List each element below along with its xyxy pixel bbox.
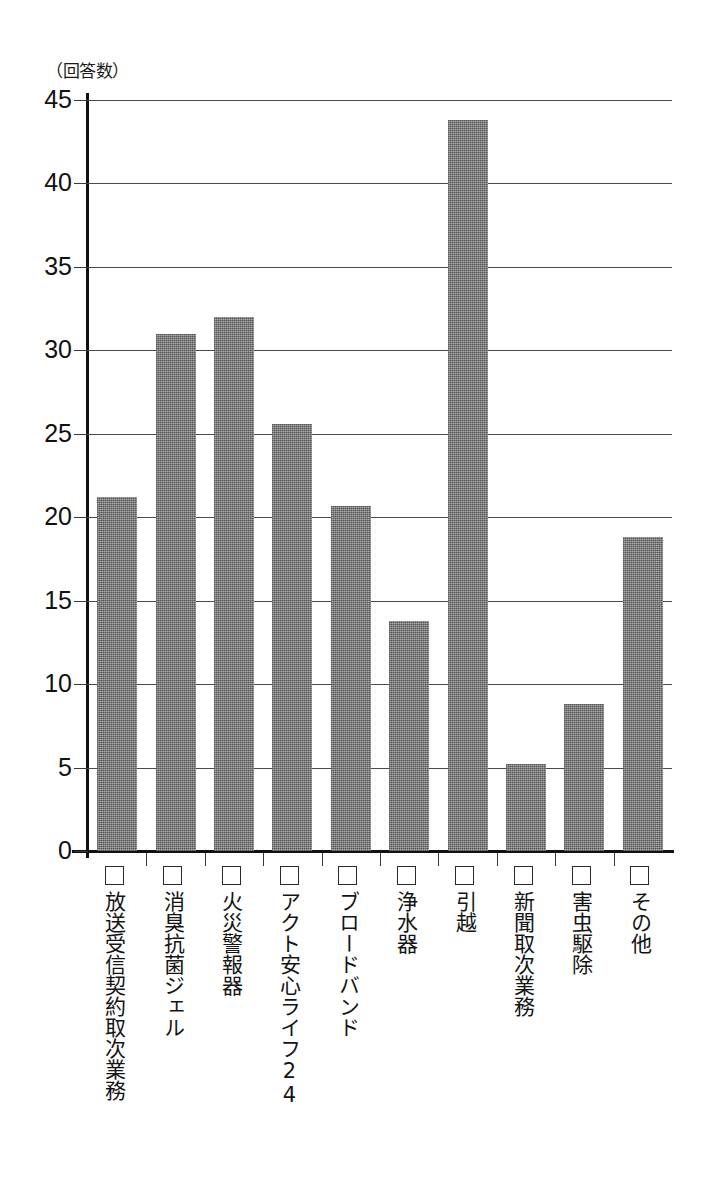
y-axis-tick-label: 0: [28, 838, 72, 863]
category-label-text: 浄水器: [395, 891, 417, 954]
y-axis-tick-mark: [74, 350, 88, 351]
y-axis-tick-label: 20: [28, 504, 72, 529]
checkbox-icon[interactable]: [105, 866, 124, 885]
y-axis-tick-mark: [74, 684, 88, 685]
gridline: [88, 183, 672, 184]
y-axis-tick-label: 15: [28, 588, 72, 613]
y-axis-tick-mark: [74, 100, 88, 101]
category-label[interactable]: 火災警報器: [220, 866, 242, 996]
x-axis-tick-mark: [438, 853, 439, 866]
y-axis-tick-label: 40: [28, 170, 72, 195]
x-axis-tick-mark: [555, 853, 556, 866]
category-label-text: アクト安心ライフ24: [278, 891, 300, 1107]
bar: [156, 334, 196, 851]
y-axis-tick-mark: [74, 768, 88, 769]
x-axis-tick-mark: [497, 853, 498, 866]
category-label[interactable]: 引越: [454, 866, 476, 933]
y-axis-tick-mark: [74, 601, 88, 602]
gridline: [88, 100, 672, 101]
checkbox-icon[interactable]: [397, 866, 416, 885]
y-axis-unit-caption: （回答数）: [46, 57, 129, 82]
y-axis-tick-label: 30: [28, 337, 72, 362]
plot-area: [88, 100, 672, 851]
y-axis-tick-mark: [74, 851, 88, 852]
category-label[interactable]: 新聞取次業務: [512, 866, 534, 1017]
bar: [214, 317, 254, 851]
category-label[interactable]: 害虫駆除: [570, 866, 592, 975]
category-label-text: 放送受信契約取次業務: [103, 891, 125, 1101]
bar: [389, 621, 429, 851]
checkbox-icon[interactable]: [630, 866, 649, 885]
x-axis-tick-mark: [205, 853, 206, 866]
bar: [448, 120, 488, 851]
bar: [506, 764, 546, 851]
checkbox-icon[interactable]: [514, 866, 533, 885]
y-axis-tick-label: 45: [28, 87, 72, 112]
checkbox-icon[interactable]: [338, 866, 357, 885]
category-label-text: 火災警報器: [220, 891, 242, 996]
x-axis-tick-mark: [322, 853, 323, 866]
checkbox-icon[interactable]: [163, 866, 182, 885]
y-axis-tick-mark: [74, 183, 88, 184]
x-axis-tick-mark: [263, 853, 264, 866]
checkbox-icon[interactable]: [455, 866, 474, 885]
y-axis-tick-label: 25: [28, 421, 72, 446]
checkbox-icon[interactable]: [572, 866, 591, 885]
bar: [331, 506, 371, 851]
category-label-text: 新聞取次業務: [512, 891, 534, 1017]
y-axis-tick-label: 35: [28, 254, 72, 279]
bar: [564, 704, 604, 851]
category-label-text: その他: [629, 891, 651, 954]
bar: [97, 497, 137, 851]
category-label[interactable]: その他: [629, 866, 651, 954]
y-axis-tick-label: 5: [28, 755, 72, 780]
checkbox-icon[interactable]: [222, 866, 241, 885]
category-label-text: ブロードバンド: [337, 891, 359, 1038]
bar: [623, 537, 663, 851]
x-axis-tick-mark: [380, 853, 381, 866]
category-label-text: 引越: [454, 891, 476, 933]
y-axis-tick-mark: [74, 434, 88, 435]
y-axis-tick-mark: [74, 267, 88, 268]
checkbox-icon[interactable]: [280, 866, 299, 885]
category-label[interactable]: 消臭抗菌ジェル: [162, 866, 184, 1038]
category-label-text: 消臭抗菌ジェル: [162, 891, 184, 1038]
category-label[interactable]: ブロードバンド: [337, 866, 359, 1038]
x-axis-tick-mark: [614, 853, 615, 866]
bar: [272, 424, 312, 851]
y-axis-tick-label: 10: [28, 671, 72, 696]
x-axis-tick-mark: [146, 853, 147, 866]
y-axis-tick-mark: [74, 517, 88, 518]
gridline: [88, 267, 672, 268]
category-label[interactable]: アクト安心ライフ24: [278, 866, 300, 1107]
category-label[interactable]: 放送受信契約取次業務: [103, 866, 125, 1101]
category-label[interactable]: 浄水器: [395, 866, 417, 954]
category-label-text: 害虫駆除: [570, 891, 592, 975]
bar-chart: （回答数） 051015202530354045 放送受信契約取次業務消臭抗菌ジ…: [0, 0, 711, 1177]
